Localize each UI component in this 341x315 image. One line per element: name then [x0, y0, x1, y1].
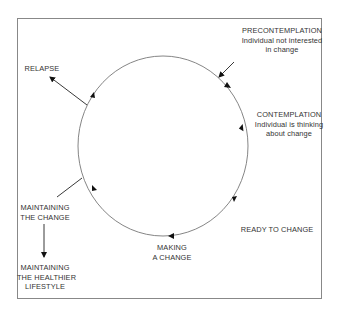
- arrowhead-bottom-icon: [168, 233, 174, 239]
- outcome-line1: MAINTAINING: [17, 263, 73, 273]
- stage-precontemplation: PRECONTEMPLATION Individual not interest…: [226, 26, 338, 55]
- stage-relapse: RELAPSE: [22, 64, 62, 74]
- outcome-line3: LIFESTYLE: [17, 282, 73, 292]
- outcome-line2: THE HEALTHIER: [17, 273, 73, 283]
- outcome-healthier-lifestyle: MAINTAINING THE HEALTHIER LIFESTYLE: [17, 263, 73, 292]
- stage-title-line1: MAKING: [150, 243, 194, 253]
- stage-ready-to-change: READY TO CHANGE: [232, 225, 322, 235]
- stage-title: READY TO CHANGE: [232, 225, 322, 235]
- stage-description: Individual not interested: [226, 36, 338, 46]
- stage-title-line2: THE CHANGE: [20, 213, 70, 223]
- stage-title: PRECONTEMPLATION: [226, 26, 338, 36]
- stage-description: in change: [226, 45, 338, 55]
- cycle-arrowheads: [90, 82, 245, 239]
- stage-title-line1: MAINTAINING: [20, 203, 70, 213]
- relapse-arrow: [50, 77, 87, 105]
- cycle-circle: [78, 56, 248, 236]
- precontemplation-arrow: [219, 62, 234, 77]
- stage-maintaining-the-change: MAINTAINING THE CHANGE: [20, 203, 70, 222]
- arrowhead-lower-left-icon: [92, 185, 97, 191]
- stage-title: RELAPSE: [22, 64, 62, 74]
- arrowhead-lower-right-icon: [232, 196, 237, 202]
- stage-description: about change: [243, 129, 335, 139]
- stage-making-a-change: MAKING A CHANGE: [150, 243, 194, 262]
- stage-title: CONTEMPLATION: [243, 110, 335, 120]
- maintaining-connector: [57, 178, 82, 197]
- stage-title-line2: A CHANGE: [150, 253, 194, 263]
- stage-description: Individual is thinking: [243, 120, 335, 130]
- stage-contemplation: CONTEMPLATION Individual is thinking abo…: [243, 110, 335, 139]
